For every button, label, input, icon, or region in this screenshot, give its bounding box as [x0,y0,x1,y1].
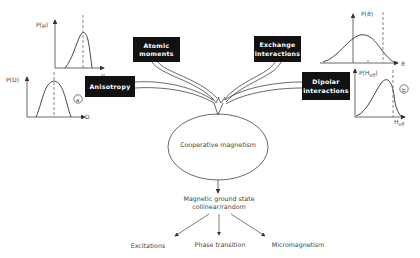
p-heff-xlabel: Heff [394,118,405,127]
plot-p-mu: P(μ) μ [36,15,105,79]
center-label: Cooperative magnetism [180,141,256,149]
p-mu-ylabel: P(μ) [36,21,48,29]
plot-p-theta: P(ϑ) ϑ [320,10,405,67]
p-heff-ylabel: P(Heff) [359,69,378,78]
box-atomic-moments: Atomic moments [133,37,180,62]
box-anisotropy: Anisotropy [85,76,135,97]
p-theta-ylabel: P(ϑ) [361,10,373,17]
cooperative-magnetism-node: Cooperative magnetism [168,114,268,180]
svg-text:moments: moments [139,50,174,57]
svg-text:collinear/random: collinear/random [192,203,245,210]
outcome-micromagnetism: Micromagnetism [272,241,324,249]
plot-p-d: P(D) D a [6,72,90,120]
outcome-excitations: Excitations [131,242,165,249]
outcome-arrows [175,214,265,236]
svg-text:Exchange: Exchange [260,41,296,49]
magnetism-diagram: P(μ) μ P(D) D a P(ϑ) ϑ P(Heff) Heff b [0,0,420,258]
outcome-phase-transition: Phase transition [195,241,246,248]
plot-p-heff: P(Heff) Heff b [355,69,408,127]
marker-a: a [76,97,79,103]
p-d-ylabel: P(D) [6,76,19,83]
svg-text:Atomic: Atomic [143,42,169,49]
svg-text:Dipolar: Dipolar [312,78,340,86]
svg-text:interactions: interactions [303,87,349,94]
box-dipolar-interactions: Dipolar interactions [302,72,350,100]
marker-b: b [402,87,406,93]
box-exchange-interactions: Exchange interactions [254,36,301,62]
ground-state-node: Magnetic ground state collinear/random [183,195,254,210]
p-d-xlabel: D [85,113,90,120]
converging-arrows [135,62,302,115]
svg-text:Anisotropy: Anisotropy [90,83,131,91]
svg-text:interactions: interactions [255,50,301,57]
p-theta-xlabel: ϑ [401,60,405,67]
